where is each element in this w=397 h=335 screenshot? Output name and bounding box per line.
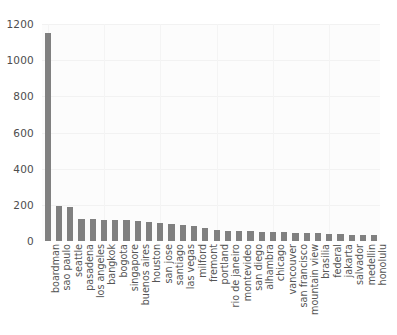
bar <box>371 235 377 241</box>
bar <box>326 234 332 241</box>
x-axis-tick-label: chicago <box>276 244 286 281</box>
y-axis-tick-label: 800 <box>13 90 34 102</box>
x-axis-tick-label: pasadena <box>85 244 95 291</box>
x-axis-tick-label: san diego <box>254 244 264 291</box>
bar <box>90 219 96 241</box>
bar <box>45 33 51 241</box>
bar <box>157 223 163 241</box>
x-axis-tick-label: montevideo <box>243 244 253 301</box>
y-axis-tick-label: 0 <box>27 235 34 247</box>
bar <box>78 219 84 241</box>
y-axis-tick-label: 1000 <box>6 54 34 66</box>
plot-area <box>42 24 380 241</box>
x-axis-tick-label: san jose <box>164 244 174 283</box>
x-axis: boardmansao pauloseattlepasadenalos ange… <box>42 244 382 335</box>
bar <box>315 233 321 241</box>
x-axis-tick-label: medellin <box>367 244 377 285</box>
y-axis-tick-label: 1200 <box>6 18 34 30</box>
bar <box>225 231 231 241</box>
x-axis-tick-label: federal <box>333 244 343 278</box>
bar-series <box>42 24 380 241</box>
x-axis-tick-label: bogota <box>119 244 129 278</box>
x-axis-tick-label: fremont <box>209 244 219 282</box>
bar <box>270 232 276 241</box>
bar <box>101 220 107 241</box>
bar <box>135 221 141 241</box>
x-axis-tick-label: las vegas <box>186 244 196 289</box>
bar <box>337 234 343 241</box>
y-axis-tick-label: 200 <box>13 199 34 211</box>
bar <box>214 230 220 241</box>
bar <box>112 220 118 241</box>
x-axis-tick-label: salvador <box>355 244 365 285</box>
bar <box>349 235 355 242</box>
y-axis: 020040060080010001200 <box>0 0 40 335</box>
bar <box>304 233 310 241</box>
x-axis-tick-label: houston <box>152 244 162 283</box>
bar-chart-figure: 020040060080010001200 boardmansao paulos… <box>0 0 397 335</box>
x-axis-tick-label: honolulu <box>378 244 388 285</box>
bar <box>281 232 287 241</box>
x-axis-tick-label: rio de janeiro <box>231 244 241 307</box>
x-axis-tick-label: buenos aires <box>141 244 151 305</box>
bar <box>180 225 186 241</box>
x-axis-tick-label: brasilia <box>321 244 331 279</box>
y-axis-tick-label: 400 <box>13 163 34 175</box>
x-axis-tick-label: sao paulo <box>62 244 72 290</box>
bar <box>168 224 174 241</box>
bar <box>123 220 129 241</box>
bar <box>202 228 208 241</box>
x-axis-tick-label: seattle <box>74 244 84 277</box>
x-axis-tick-label: portland <box>220 244 230 284</box>
bar <box>67 207 73 241</box>
x-axis-tick-label: milford <box>198 244 208 278</box>
bar <box>146 222 152 241</box>
x-axis-tick-label: mountain view <box>310 244 320 315</box>
x-axis-tick-label: jakarta <box>344 244 354 277</box>
bar <box>191 226 197 241</box>
bar <box>360 235 366 241</box>
x-axis-tick-label: boardman <box>51 244 61 293</box>
bar <box>56 206 62 241</box>
x-axis-tick-label: vancouver <box>288 244 298 294</box>
x-axis-tick-label: santiago <box>175 244 185 285</box>
x-axis-tick-label: bangkok <box>107 244 117 285</box>
bar <box>247 231 253 241</box>
bar <box>292 233 298 241</box>
bar <box>236 231 242 241</box>
y-axis-tick-label: 600 <box>13 127 34 139</box>
x-axis-tick-label: los angeles <box>96 244 106 298</box>
x-axis-tick-label: alhambra <box>265 244 275 290</box>
x-axis-tick-label: san francisco <box>299 244 309 307</box>
x-axis-tick-label: singapore <box>130 244 140 291</box>
bar <box>259 232 265 241</box>
